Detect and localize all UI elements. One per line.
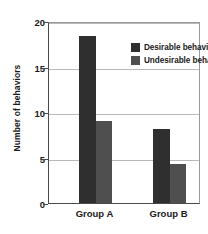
- gridline: [49, 114, 199, 115]
- x-axis-tick-label: Group B: [150, 208, 188, 219]
- legend-item: Undesirable behaviors: [131, 54, 208, 66]
- y-axis-tick-label: 15: [5, 62, 45, 73]
- bar: [79, 36, 96, 203]
- chart-legend: Desirable behaviors Undesirable behavior…: [131, 41, 208, 67]
- y-axis-tick-label: 5: [5, 153, 45, 164]
- gridline: [49, 160, 199, 161]
- gridline: [49, 23, 199, 24]
- y-axis-tick-label: 20: [5, 17, 45, 28]
- legend-item-label: Desirable behaviors: [144, 43, 208, 52]
- y-axis-tick-mark: [43, 204, 48, 205]
- bar: [170, 164, 187, 203]
- gridline: [49, 69, 199, 70]
- bar: [96, 121, 113, 203]
- legend-item: Desirable behaviors: [131, 41, 208, 53]
- y-axis-tick-group: 05101520: [0, 0, 45, 234]
- y-axis-tick-label: 0: [5, 199, 45, 210]
- legend-swatch-icon: [131, 43, 140, 52]
- y-axis-tick-label: 10: [5, 108, 45, 119]
- bar-chart: Number of behaviors 05101520 Desirable b…: [0, 0, 208, 234]
- legend-swatch-icon: [131, 56, 140, 65]
- x-axis-tick-label: Group A: [76, 208, 114, 219]
- plot-area: Desirable behaviors Undesirable behavior…: [48, 22, 200, 204]
- legend-item-label: Undesirable behaviors: [144, 56, 208, 65]
- bar: [153, 129, 170, 203]
